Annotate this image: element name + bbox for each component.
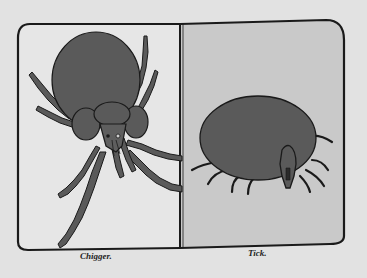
chigger-caption: Chigger. (80, 251, 112, 261)
illustration (0, 0, 367, 278)
tick-caption: Tick. (248, 248, 266, 258)
